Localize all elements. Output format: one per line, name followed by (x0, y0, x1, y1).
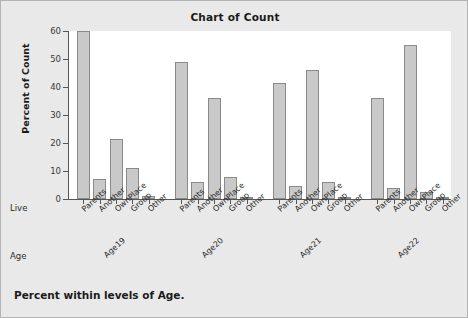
bar (77, 31, 90, 199)
y-tick-label: 30 (19, 110, 61, 120)
group-label: Age22 (396, 236, 421, 260)
y-tick (63, 115, 68, 116)
y-tick-label: 60 (19, 26, 61, 36)
bar (371, 98, 384, 199)
plot-area (69, 31, 451, 199)
bar (208, 98, 221, 199)
chart-title: Chart of Count (1, 11, 468, 23)
age-axis-label: Age (10, 251, 26, 261)
y-tick-label: 40 (19, 82, 61, 92)
y-tick (63, 59, 68, 60)
bar (273, 83, 286, 199)
y-tick (63, 31, 68, 32)
group-label: Age21 (298, 236, 323, 260)
bar (175, 62, 188, 199)
y-tick (63, 87, 68, 88)
chart-footnote: Percent within levels of Age. (14, 289, 184, 301)
bar (306, 70, 319, 199)
bars-container (69, 31, 451, 199)
y-tick (63, 143, 68, 144)
live-axis-label: Live (10, 203, 27, 213)
y-tick-label: 10 (19, 166, 61, 176)
y-axis-line (68, 31, 69, 200)
y-tick-label: 50 (19, 54, 61, 64)
bar (404, 45, 417, 199)
chart-figure: Chart of Count Percent of Count 01020304… (0, 0, 468, 318)
y-tick-label: 20 (19, 138, 61, 148)
group-label: Age19 (102, 236, 127, 260)
y-tick (63, 171, 68, 172)
group-label: Age20 (200, 236, 225, 260)
